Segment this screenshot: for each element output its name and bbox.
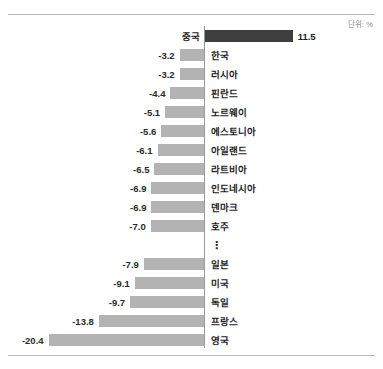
bar-row: -5.1노르웨이 [0, 102, 383, 121]
bar-row: -9.1미국 [0, 273, 383, 292]
bar-value-label: -7.0 [129, 220, 145, 231]
bar [170, 87, 204, 99]
bar-row: -7.0호주 [0, 216, 383, 235]
bar-row: -7.9일본 [0, 254, 383, 273]
category-label: 러시아 [211, 67, 238, 81]
category-label: 인도네시아 [211, 181, 256, 195]
bar-value-label: -3.2 [158, 68, 174, 79]
category-label: 영국 [211, 333, 229, 347]
bar [161, 125, 204, 137]
bar-row: -9.7독일 [0, 292, 383, 311]
category-label: 아일랜드 [211, 143, 247, 157]
bar-value-label: -6.5 [133, 163, 149, 174]
bar-row: 11.5중국 [0, 26, 383, 45]
bar-row: -3.2러시아 [0, 64, 383, 83]
plot-area: 11.5중국-3.2한국-3.2러시아-4.4핀란드-5.1노르웨이-5.6에스… [0, 26, 383, 351]
bar-value-label: -9.7 [109, 296, 125, 307]
bar [144, 258, 204, 270]
category-label: 미국 [211, 276, 229, 290]
category-label: 노르웨이 [211, 105, 247, 119]
bar [180, 68, 204, 80]
vertical-ellipsis-icon: ⋮ [211, 239, 222, 250]
bar [130, 296, 204, 308]
top-divider [8, 14, 375, 15]
bar-row: -6.9덴마크 [0, 197, 383, 216]
bar-value-label: 11.5 [298, 30, 316, 41]
bar-chart: 단위: % 11.5중국-3.2한국-3.2러시아-4.4핀란드-5.1노르웨이… [0, 0, 383, 369]
category-label: 호주 [211, 219, 229, 233]
axis-break-row: ⋮ [0, 235, 383, 254]
category-label: 프랑스 [211, 314, 238, 328]
bar-value-label: -20.4 [22, 334, 44, 345]
bar-row: -20.4영국 [0, 330, 383, 349]
bar-value-label: -3.2 [158, 49, 174, 60]
bottom-divider [8, 355, 375, 356]
category-label: 한국 [211, 48, 229, 62]
bar [180, 49, 204, 61]
bar-value-label: -5.6 [140, 125, 156, 136]
bar [49, 334, 204, 346]
category-label: 핀란드 [211, 86, 238, 100]
bar [205, 30, 293, 42]
bar [99, 315, 204, 327]
category-label: 에스토니아 [211, 124, 256, 138]
bar-row: -6.1아일랜드 [0, 140, 383, 159]
bar-row: -4.4핀란드 [0, 83, 383, 102]
bar-row: -13.8프랑스 [0, 311, 383, 330]
bar-value-label: -13.8 [72, 315, 94, 326]
category-label: 덴마크 [211, 200, 238, 214]
bar [165, 106, 204, 118]
bar-value-label: -6.1 [136, 144, 152, 155]
bar [151, 182, 204, 194]
bar-row: -6.9인도네시아 [0, 178, 383, 197]
bar [151, 201, 204, 213]
bar [151, 220, 204, 232]
bar-row: -5.6에스토니아 [0, 121, 383, 140]
bar [154, 163, 204, 175]
bar-value-label: -4.4 [149, 87, 165, 98]
bar-value-label: -6.9 [130, 182, 146, 193]
category-label: 독일 [211, 295, 229, 309]
category-label: 중국 [182, 29, 200, 43]
bar-row: -6.5라트비아 [0, 159, 383, 178]
category-label: 일본 [211, 257, 229, 271]
bar-value-label: -6.9 [130, 201, 146, 212]
bar [135, 277, 204, 289]
category-label: 라트비아 [211, 162, 247, 176]
bar-value-label: -9.1 [113, 277, 129, 288]
bar-value-label: -7.9 [122, 258, 138, 269]
bar [158, 144, 204, 156]
bar-value-label: -5.1 [144, 106, 160, 117]
bar-row: -3.2한국 [0, 45, 383, 64]
